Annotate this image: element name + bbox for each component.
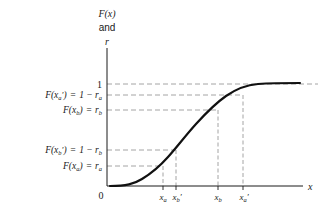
y-label-fxa: F(xa)=ra — [62, 161, 102, 172]
y-axis-title-r: r — [105, 36, 109, 47]
y-label-fxa-prime: F(xa′)=1 − ra — [44, 90, 102, 101]
x-axis-title: x — [307, 181, 313, 192]
cdf-figure: F(x) and r x 0 1 F(xa′)=1 − ra F(xb)=rb — [0, 0, 328, 210]
xtick-label-xa-prime: xa′ — [238, 192, 249, 203]
xtick-label-xb: xb — [213, 192, 222, 203]
y-label-one: 1 — [97, 79, 102, 90]
xtick-label-xa: xa — [158, 192, 166, 203]
xtick-label-xb-prime: xb′ — [171, 192, 182, 203]
y-axis-title-fx: F(x) — [97, 8, 116, 20]
origin-label: 0 — [99, 190, 104, 201]
y-axis-title-and: and — [99, 22, 116, 33]
y-label-fxb: F(xb)=rb — [62, 105, 103, 116]
cdf-curve — [110, 83, 300, 186]
figure-container: F(x) and r x 0 1 F(xa′)=1 − ra F(xb)=rb — [0, 0, 328, 210]
y-label-fxb-prime: F(xb′)=1 − rb — [44, 145, 103, 156]
